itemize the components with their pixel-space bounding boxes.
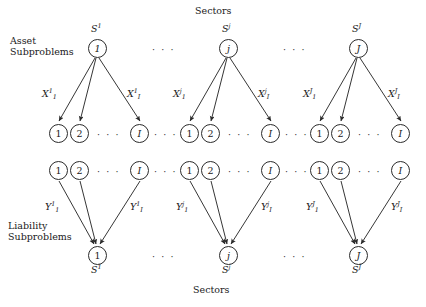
asset-children-ellipsis-group-j: · · · <box>228 129 251 140</box>
bottom-row-ellipsis-left: · · · <box>152 251 175 262</box>
liability-child-I-group-j[interactable]: I <box>261 161 280 180</box>
liability-subproblems-label: Liability Subproblems <box>8 221 72 242</box>
asset-child-2-group-1[interactable]: 2 <box>70 124 89 143</box>
x-last-base-j: X <box>258 88 265 99</box>
liability-child-I-group-J[interactable]: I <box>391 161 410 180</box>
top-row-ellipsis-left: · · · <box>152 44 175 55</box>
liability-subproblems-line2: Subproblems <box>8 232 72 243</box>
liability-child-2-group-J[interactable]: 2 <box>331 161 350 180</box>
x-label-first-group-j: Xj1 <box>173 88 186 101</box>
x-label-last-group-j: XjI <box>258 88 269 101</box>
asset-subproblems-label: Asset Subproblems <box>10 36 74 57</box>
liability-tag-sup-j: j <box>229 263 231 271</box>
asset-child-I-group-j[interactable]: I <box>261 124 280 143</box>
x-first-sub-J: 1 <box>312 93 316 101</box>
asset-child-2-group-J[interactable]: 2 <box>331 124 350 143</box>
asset-tag-sup-1: 1 <box>98 22 102 30</box>
liability-child-1-group-J[interactable]: 1 <box>310 161 329 180</box>
x-last-base-1: X <box>127 88 134 99</box>
asset-children-ellipsis-group-1: · · · <box>97 129 120 140</box>
y-last-sub-1: I <box>140 206 143 214</box>
x-label-first-group-J: XJ1 <box>303 88 316 101</box>
x-last-base-J: X <box>388 88 395 99</box>
liability-node-tag-group-J: SJ <box>352 264 361 276</box>
asset-row-ellipsis-1: · · · <box>154 129 177 140</box>
y-first-sub-j: 1 <box>184 206 188 214</box>
liability-node-tag-group-1: S1 <box>91 264 102 276</box>
asset-tag-sup-j: j <box>229 22 231 30</box>
x-label-last-group-1: X1I <box>127 88 140 101</box>
liability-children-ellipsis-group-j: · · · <box>228 166 251 177</box>
bottom-row-ellipsis-right: · · · <box>283 251 306 262</box>
asset-child-1-group-1[interactable]: 1 <box>49 124 68 143</box>
liability-child-2-group-j[interactable]: 2 <box>201 161 220 180</box>
liability-row-ellipsis-2: · · · <box>285 166 308 177</box>
asset-node-tag-group-1: S1 <box>91 23 102 35</box>
asset-child-1-group-j[interactable]: 1 <box>180 124 199 143</box>
liability-children-ellipsis-group-1: · · · <box>97 166 120 177</box>
x-first-base-J: X <box>303 88 310 99</box>
y-label-first-group-1: Y11 <box>45 201 59 214</box>
x-first-sub-j: 1 <box>182 93 186 101</box>
asset-child-I-group-1[interactable]: I <box>130 124 149 143</box>
liability-row-ellipsis-1: · · · <box>154 166 177 177</box>
liability-child-1-group-1[interactable]: 1 <box>49 161 68 180</box>
asset-child-1-group-J[interactable]: 1 <box>310 124 329 143</box>
liability-child-1-group-j[interactable]: 1 <box>180 161 199 180</box>
x-first-base-j: X <box>173 88 180 99</box>
liability-child-I-group-1[interactable]: I <box>130 161 149 180</box>
y-label-last-group-1: Y1I <box>130 201 143 214</box>
liability-tag-sup-1: 1 <box>98 263 102 271</box>
asset-row-ellipsis-2: · · · <box>285 129 308 140</box>
x-last-sub-J: I <box>397 93 400 101</box>
y-label-first-group-j: Yj1 <box>176 201 188 214</box>
x-first-base-1: X <box>42 88 49 99</box>
x-last-sub-j: I <box>267 93 270 101</box>
asset-node-group-J[interactable]: J <box>349 39 368 58</box>
y-last-sub-j: I <box>269 206 272 214</box>
y-first-sub-J: 1 <box>315 206 319 214</box>
x-label-first-group-1: X11 <box>42 88 57 101</box>
y-label-first-group-J: YJ1 <box>306 201 319 214</box>
asset-child-2-group-j[interactable]: 2 <box>201 124 220 143</box>
y-last-sub-J: I <box>400 206 403 214</box>
y-label-last-group-j: YjI <box>261 201 272 214</box>
x-first-sub-1: 1 <box>53 93 57 101</box>
liability-node-tag-group-j: Sj <box>222 264 231 276</box>
x-label-last-group-J: XJI <box>388 88 400 101</box>
asset-node-tag-group-j: Sj <box>222 23 231 35</box>
liability-children-ellipsis-group-J: · · · <box>358 166 381 177</box>
asset-node-group-j[interactable]: j <box>219 39 238 58</box>
figure-canvas: Sectors Sectors Asset Subproblems Liabil… <box>0 0 426 307</box>
y-label-last-group-J: YJI <box>391 201 402 214</box>
x-last-sub-1: I <box>138 93 141 101</box>
asset-node-group-1[interactable]: 1 <box>88 39 107 58</box>
liability-child-2-group-1[interactable]: 2 <box>70 161 89 180</box>
top-row-ellipsis-right: · · · <box>283 44 306 55</box>
liability-tag-sup-J: J <box>359 263 362 271</box>
bottom-sectors-title: Sectors <box>193 285 229 296</box>
asset-node-tag-group-J: SJ <box>352 23 361 35</box>
y-first-sub-1: 1 <box>55 206 59 214</box>
top-sectors-title: Sectors <box>195 6 231 17</box>
asset-child-I-group-J[interactable]: I <box>391 124 410 143</box>
asset-tag-sup-J: J <box>359 22 362 30</box>
asset-children-ellipsis-group-J: · · · <box>358 129 381 140</box>
asset-subproblems-line2: Subproblems <box>10 47 74 58</box>
